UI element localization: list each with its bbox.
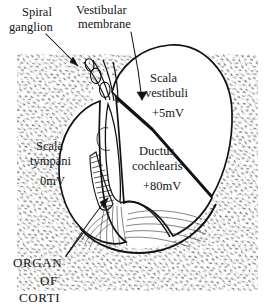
cochlea-cross-section-figure: Spiral ganglion Vestibular membrane Scal… [0,0,266,307]
scala-vestibuli-line1: Scala [150,71,178,85]
ductus-cochlearis-line1: Ductus [139,144,175,158]
vestibular-membrane-line1: Vestibular [76,3,128,17]
organ-of-corti-line2: OF [40,273,58,288]
label-vestibular-membrane: Vestibular membrane [76,3,131,31]
ductus-cochlearis-potential: +80mV [143,179,181,193]
organ-of-corti-line3: CORTI [19,290,60,305]
diagram-canvas: Spiral ganglion Vestibular membrane Scal… [0,0,266,307]
scala-tympani-line2: tympani [30,154,71,168]
scala-tympani-line1: Scala [36,139,64,153]
organ-of-corti-line1: ORGAN [13,255,62,270]
ductus-cochlearis-line2: cochlearis [132,159,183,173]
spiral-ganglion-line1: Spiral [22,5,52,19]
vestibular-membrane-line2: membrane [78,17,131,31]
scala-vestibuli-potential: +5mV [152,106,184,120]
scala-vestibuli-line2: vestibuli [145,86,189,100]
spiral-ganglion-line2: ganglion [9,20,53,34]
scala-tympani-potential: 0mV [40,174,65,188]
